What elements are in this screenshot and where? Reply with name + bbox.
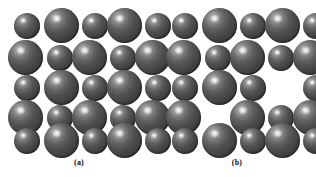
sphere-large-r1c4 — [265, 8, 300, 43]
sphere-small-r1c3 — [82, 13, 108, 39]
sphere-small-r2c2 — [205, 45, 231, 71]
lattice-perfect-crystal — [0, 0, 158, 155]
sphere-large-r2c1 — [166, 40, 201, 75]
sphere-large-r1c2 — [202, 8, 237, 43]
panel-a-caption: (a) — [0, 158, 158, 167]
sphere-small-r3c5 — [303, 75, 316, 101]
sphere-large-r2c3 — [230, 40, 265, 75]
panel-a — [0, 0, 158, 177]
sphere-large-r2c5 — [293, 40, 316, 75]
sphere-small-r5c5 — [303, 128, 316, 154]
lattice-defect-crystal — [158, 0, 316, 155]
sphere-small-r3c3 — [240, 75, 266, 101]
sphere-large-r1c2 — [44, 8, 79, 43]
sphere-large-r3c4 — [107, 70, 142, 105]
sphere-large-r2c3 — [72, 40, 107, 75]
sphere-large-r5c4 — [107, 123, 142, 158]
sphere-small-r5c3 — [82, 128, 108, 154]
sphere-large-r1c4 — [107, 8, 142, 43]
sphere-large-r5c4 — [265, 123, 300, 158]
sphere-small-r1c1 — [14, 13, 40, 39]
sphere-small-r5c3 — [240, 128, 266, 154]
sphere-small-r2c4 — [110, 45, 136, 71]
sphere-large-r5c2 — [202, 123, 237, 158]
sphere-small-r1c1 — [172, 13, 198, 39]
panel-b-caption: (b) — [158, 158, 316, 167]
sphere-large-r3c2 — [44, 70, 79, 105]
sphere-small-r3c1 — [14, 75, 40, 101]
sphere-small-r5c1 — [172, 128, 198, 154]
sphere-small-r3c3 — [82, 75, 108, 101]
sphere-small-r1c5 — [303, 13, 316, 39]
panel-b — [158, 0, 316, 177]
sphere-small-r3c1 — [172, 75, 198, 101]
sphere-small-r5c1 — [14, 128, 40, 154]
sphere-small-r2c2 — [47, 45, 73, 71]
figure-root: (a) (b) — [0, 0, 316, 177]
sphere-small-r2c4 — [268, 45, 294, 71]
sphere-large-r5c2 — [44, 123, 79, 158]
sphere-small-r1c3 — [240, 13, 266, 39]
sphere-large-r3c2 — [202, 70, 237, 105]
sphere-large-r2c1 — [8, 40, 43, 75]
